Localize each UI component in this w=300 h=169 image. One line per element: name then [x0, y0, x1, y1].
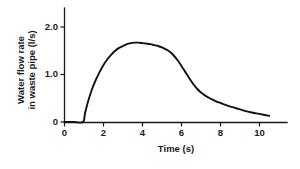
y-tick-label-2: 2.0	[45, 21, 58, 32]
y-axis-title-line2: in waste pipe (l/s)	[26, 30, 37, 109]
x-tick-label-10: 10	[254, 127, 265, 138]
y-axis-title-group: Water flow rate in waste pipe (l/s)	[15, 30, 37, 109]
x-axis-title: Time (s)	[158, 143, 194, 154]
y-tick-label-0: 0	[53, 116, 58, 127]
x-tick-label-6: 6	[179, 127, 184, 138]
chart-figure: Water flow rate in waste pipe (l/s) 2.0 …	[0, 0, 300, 169]
x-tick-label-0: 0	[62, 127, 67, 138]
flow-rate-line-chart: Water flow rate in waste pipe (l/s) 2.0 …	[0, 0, 300, 169]
x-tick-label-4: 4	[140, 127, 146, 138]
y-axis-tick-labels: 2.0 1.0 0	[45, 21, 58, 127]
y-axis-title-line1: Water flow rate	[15, 36, 26, 104]
x-axis-tick-labels: 0 2 4 6 8 10	[62, 127, 265, 138]
y-tick-label-1: 1.0	[45, 68, 58, 79]
x-tick-label-8: 8	[218, 127, 223, 138]
x-axis	[65, 123, 288, 127]
y-axis	[61, 8, 65, 123]
flow-rate-curve	[65, 43, 270, 123]
x-tick-label-2: 2	[101, 127, 106, 138]
